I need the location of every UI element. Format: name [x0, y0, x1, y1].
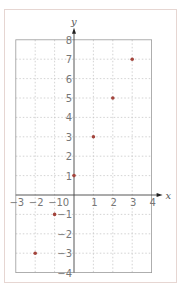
- y-axis-label: y: [70, 16, 77, 27]
- y-tick-label: 2: [66, 151, 72, 162]
- y-tick-label: −4: [57, 268, 72, 279]
- x-tick-label: −2: [29, 197, 44, 208]
- y-axis-arrow-icon: [72, 28, 76, 34]
- x-tick-label: 0: [63, 197, 69, 208]
- y-tick-label: 8: [66, 35, 72, 46]
- x-tick-label: −1: [48, 197, 63, 208]
- y-tick-label: 7: [66, 54, 72, 65]
- x-axis-label: x: [166, 190, 172, 201]
- axes: [16, 28, 163, 273]
- x-tick-label: 4: [149, 197, 155, 208]
- data-point: [72, 174, 76, 178]
- y-tick-label: 6: [66, 74, 72, 85]
- x-tick-label: 3: [130, 197, 136, 208]
- y-tick-label: −3: [57, 248, 72, 259]
- grid-lines: [16, 40, 152, 273]
- y-tick-label: 4: [66, 112, 72, 123]
- y-tick-label: 5: [66, 93, 72, 104]
- data-point: [111, 96, 115, 100]
- x-tick-label: 2: [111, 197, 117, 208]
- x-axis-arrow-icon: [157, 193, 163, 197]
- data-point: [53, 213, 57, 217]
- y-tick-label: 3: [66, 132, 72, 143]
- data-point: [92, 135, 96, 139]
- y-tick-label: 1: [66, 171, 72, 182]
- y-tick-label: −2: [57, 229, 72, 240]
- y-tick-label: −1: [57, 209, 72, 220]
- scatter-plot: −3−2−10123487654321−1−2−3−4 x y: [0, 0, 181, 294]
- x-tick-label: −3: [9, 197, 24, 208]
- x-tick-label: 1: [91, 197, 97, 208]
- tick-labels: −3−2−10123487654321−1−2−3−4: [9, 35, 155, 279]
- data-point: [33, 251, 37, 255]
- data-point: [130, 57, 134, 61]
